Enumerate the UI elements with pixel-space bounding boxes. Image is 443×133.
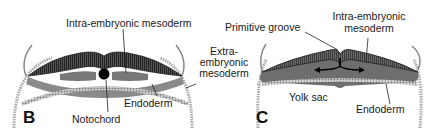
label-yolk-sac: Yolk sac [289,92,328,103]
panel-letter-c: C [256,108,268,128]
leader-primitive-groove [305,32,338,50]
label-intra-embryonic-c-line2: mesoderm [324,23,414,34]
label-endoderm-c: Endoderm [356,104,404,115]
label-endoderm-b: Endoderm [124,98,172,109]
panel-letter-b: B [23,108,35,128]
label-extra-embryonic-line3: mesoderm [194,68,254,79]
embryo-cross-section-figure: Intra-embryonic mesoderm Notochord Endod… [0,0,443,133]
leader-endoderm-c [386,84,390,104]
label-primitive-groove: Primitive groove [225,22,300,33]
label-notochord: Notochord [72,114,120,125]
leader-extra-mesoderm-b [186,84,196,88]
label-intra-embryonic-c-line1: Intra-embryonic [324,11,414,22]
panel-c-drawing [258,44,421,128]
label-intra-embryonic-mesoderm-b: Intra-embryonic mesoderm [66,18,191,29]
